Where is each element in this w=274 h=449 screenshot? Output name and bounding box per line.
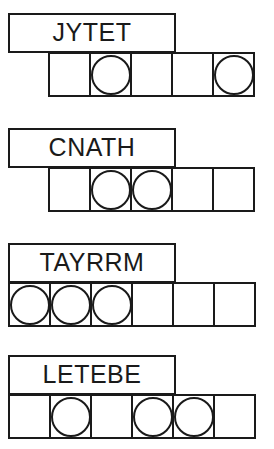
letter-cell-strip bbox=[48, 167, 255, 212]
circle-marker-icon bbox=[92, 285, 132, 325]
word-label-text: CNATH bbox=[49, 135, 136, 160]
letter-cell[interactable] bbox=[8, 394, 51, 439]
circle-marker-icon bbox=[51, 285, 91, 325]
letter-cell[interactable] bbox=[172, 282, 215, 327]
letter-cell-strip bbox=[48, 52, 255, 97]
word-label-text: TAYRRM bbox=[40, 250, 145, 275]
word-label-box: LETEBE bbox=[8, 355, 176, 395]
letter-cell[interactable] bbox=[131, 282, 174, 327]
letter-cell[interactable] bbox=[48, 167, 91, 212]
word-label-box: TAYRRM bbox=[8, 243, 176, 283]
letter-cell[interactable] bbox=[212, 167, 255, 212]
circle-marker-icon bbox=[133, 397, 173, 437]
letter-cell[interactable] bbox=[213, 282, 256, 327]
letter-cell-strip bbox=[8, 394, 256, 439]
word-label-text: LETEBE bbox=[43, 362, 142, 387]
circle-marker-icon bbox=[10, 285, 50, 325]
letter-cell[interactable] bbox=[49, 282, 92, 327]
letter-cell[interactable] bbox=[130, 52, 173, 97]
letter-cell[interactable] bbox=[89, 52, 132, 97]
letter-cell[interactable] bbox=[131, 394, 174, 439]
letter-cell[interactable] bbox=[8, 282, 51, 327]
letter-cell-strip bbox=[8, 282, 256, 327]
circle-marker-icon bbox=[91, 55, 131, 95]
circle-marker-icon bbox=[51, 397, 91, 437]
letter-cell[interactable] bbox=[89, 167, 132, 212]
letter-cell[interactable] bbox=[213, 394, 256, 439]
word-box-diagram: JYTETCNATHTAYRRMLETEBE bbox=[0, 0, 274, 449]
word-label-box: CNATH bbox=[8, 128, 176, 168]
letter-cell[interactable] bbox=[48, 52, 91, 97]
word-label-text: JYTET bbox=[53, 20, 132, 45]
circle-marker-icon bbox=[214, 55, 254, 95]
letter-cell[interactable] bbox=[212, 52, 255, 97]
letter-cell[interactable] bbox=[172, 394, 215, 439]
letter-cell[interactable] bbox=[171, 167, 214, 212]
circle-marker-icon bbox=[132, 170, 172, 210]
letter-cell[interactable] bbox=[171, 52, 214, 97]
letter-cell[interactable] bbox=[49, 394, 92, 439]
letter-cell[interactable] bbox=[90, 394, 133, 439]
letter-cell[interactable] bbox=[90, 282, 133, 327]
word-label-box: JYTET bbox=[8, 13, 176, 53]
circle-marker-icon bbox=[91, 170, 131, 210]
circle-marker-icon bbox=[174, 397, 214, 437]
letter-cell[interactable] bbox=[130, 167, 173, 212]
